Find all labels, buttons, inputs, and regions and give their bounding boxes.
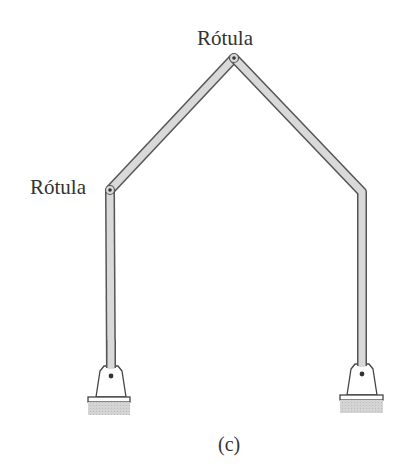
frame-members [110,58,362,376]
top-hinge-label: Rótula [197,28,253,49]
gable-frame-diagram [0,0,420,471]
right-rafter-and-column [234,58,362,376]
column-ends [111,340,362,369]
figure-caption: (c) [218,434,240,454]
right-support-icon [340,364,383,413]
left-rafter [110,58,234,190]
left-hinge-label: Rótula [30,177,86,198]
